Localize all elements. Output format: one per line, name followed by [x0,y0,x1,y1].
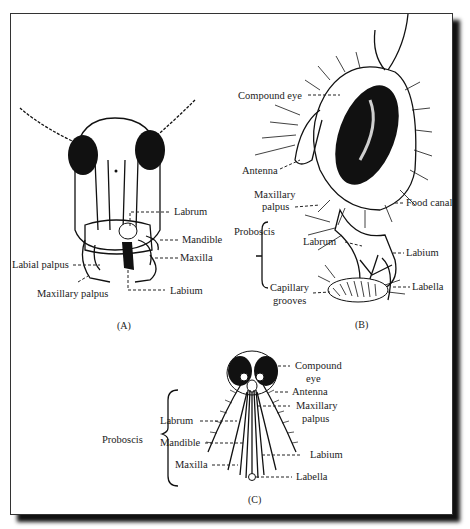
caption-a: (A) [117,320,131,332]
label-labium-c: Labium [310,449,343,460]
label-compound-eye-c-line2: eye [306,373,321,384]
label-proboscis-c: Proboscis [102,434,143,445]
label-labella-c: Labella [296,471,328,482]
label-antenna-b: Antenna [242,165,278,176]
compound-eye-right-icon [135,130,165,170]
label-proboscis-b: Proboscis [234,226,275,237]
label-labium-b: Labium [406,247,439,258]
label-maxilla-c: Maxilla [175,459,208,470]
caption-c: (C) [248,494,261,506]
label-food-canal-b: Food canal [406,197,452,208]
panel-b-housefly-head: Compound eye Antenna Maxillary palpus Fo… [234,14,452,331]
label-labrum-a: Labrum [174,206,207,217]
label-maxillary-palpus-b: Maxillary [254,189,296,200]
label-antenna-c: Antenna [292,386,328,397]
label-maxilla-a: Maxilla [180,252,213,263]
label-labial-palpus-a: Labial palpus [12,259,69,270]
label-capillary-grooves-b-line2: grooves [273,295,306,306]
label-mandible-c: Mandible [160,437,201,448]
label-compound-eye-b: Compound eye [238,90,302,101]
caption-b: (B) [355,319,368,331]
label-labium-a: Labium [170,285,203,296]
label-mandible-a: Mandible [182,234,223,245]
label-labrum-b: Labrum [303,236,336,247]
label-maxillary-palpus-c: Maxillary [296,400,338,411]
panel-c-mosquito-head: Compound eye Antenna Maxillary palpus Pr… [102,351,343,506]
compound-eye-left-icon [68,135,98,175]
label-labella-b: Labella [412,281,444,292]
label-capillary-grooves-b: Capillary [270,282,310,293]
label-maxillary-palpus-a: Maxillary palpus [37,288,108,299]
panel-a-grasshopper-head: Labrum Mandible Maxilla Labial palpus Ma… [12,100,223,332]
label-compound-eye-c: Compound [295,360,342,371]
label-maxillary-palpus-c-line2: palpus [302,413,329,424]
mouthparts-diagram: .dash{stroke:#222;stroke-width:1;stroke-… [0,0,470,529]
label-labrum-c: Labrum [160,415,193,426]
label-maxillary-palpus-b-line2: palpus [262,201,289,212]
